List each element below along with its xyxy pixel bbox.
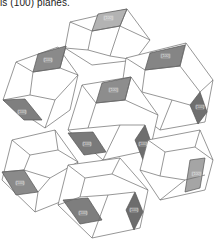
- svg-text:(100): (100): [104, 16, 112, 20]
- label-center-right: (100): [139, 142, 147, 146]
- svg-text:(100): (100): [139, 142, 147, 146]
- svg-text:(100): (100): [161, 54, 169, 58]
- label-top: (100): [104, 16, 113, 20]
- label-bottom-left: (100): [79, 211, 87, 215]
- svg-text:(100): (100): [109, 88, 117, 92]
- label-left-mid: (100): [18, 110, 26, 114]
- dodecahedron-lower-right: [140, 130, 213, 200]
- svg-text:(100): (100): [18, 110, 26, 114]
- svg-text:(100): (100): [16, 181, 24, 185]
- label-upper-right: (100): [161, 54, 170, 58]
- label-right-low: (100): [192, 172, 201, 176]
- label-center-left: (100): [83, 142, 91, 146]
- dodecahedron-bottom: [58, 158, 148, 238]
- label-right-mid: (100): [196, 105, 204, 109]
- svg-text:(100): (100): [196, 105, 204, 109]
- rhombic-dodecahedra-figure: (100) (100) (100) (100) (100) (100) (100…: [0, 0, 218, 249]
- dodecahedron-upper-left: [3, 46, 78, 128]
- label-upper-left: (100): [44, 58, 52, 62]
- label-bottom-right: (100): [130, 208, 138, 212]
- svg-text:(100): (100): [192, 172, 200, 176]
- svg-text:(100): (100): [79, 211, 87, 215]
- svg-text:(100): (100): [44, 58, 52, 62]
- label-lower-left: (100): [16, 181, 24, 185]
- svg-text:(100): (100): [130, 208, 138, 212]
- svg-text:(100): (100): [83, 142, 91, 146]
- label-center-top: (100): [109, 88, 118, 92]
